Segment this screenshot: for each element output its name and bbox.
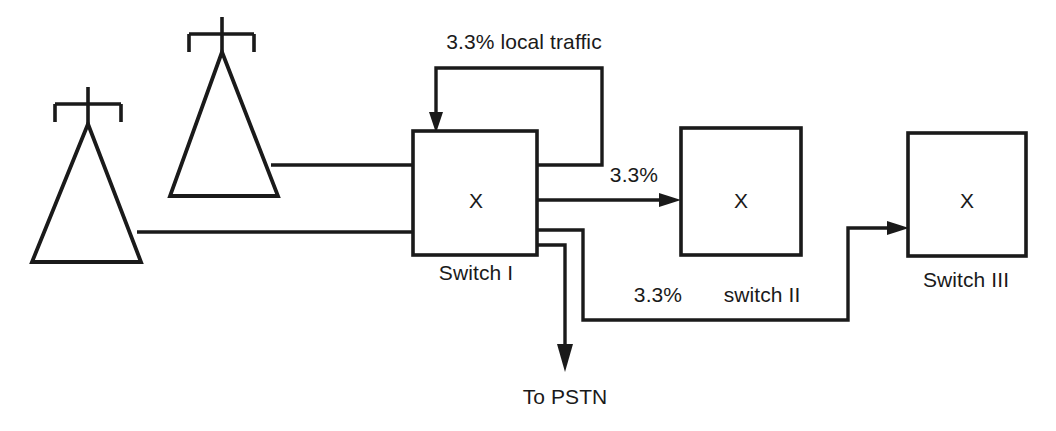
lower-path-target-label: switch II [724,283,801,307]
antenna-tower-2 [170,17,278,196]
diagram-canvas: 3.3% local traffic X Switch I 3.3% X 3.3… [0,0,1056,431]
switch-three-symbol: X [960,189,974,213]
pstn-arrowhead-icon [557,344,573,372]
tower-1-body-icon [32,124,141,262]
tower-2-body-icon [170,52,278,196]
link-switch1-to-switch2 [537,193,681,207]
pstn-label: To PSTN [523,385,608,409]
lower-path-percent-label: 3.3% [634,283,682,307]
switch-two-percent-label: 3.3% [610,163,658,187]
link-switch1-to-pstn [537,245,573,372]
switch-one-caption: Switch I [439,261,513,285]
diagram-graphics [0,0,1056,431]
local-traffic-label: 3.3% local traffic [446,30,602,54]
switch-three-caption: Switch III [923,268,1009,292]
pstn-path [537,245,565,348]
switch-one-symbol: X [469,189,483,213]
switch3-arrowhead-icon [887,221,909,235]
switch2-arrowhead-icon [659,193,681,207]
switch-two-symbol: X [734,189,748,213]
antenna-tower-1 [32,87,141,262]
